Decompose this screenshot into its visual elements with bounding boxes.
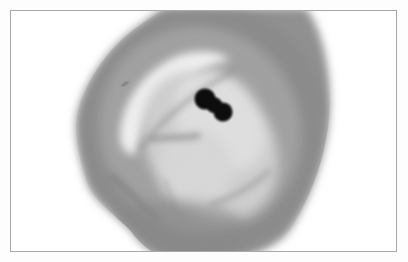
microscopy-image-frame bbox=[10, 10, 397, 252]
cell-micrograph bbox=[10, 10, 397, 252]
image-description: Grayscale light-microscopy photograph of… bbox=[0, 0, 1, 1]
image-page: Grayscale light-microscopy photograph of… bbox=[0, 0, 408, 262]
